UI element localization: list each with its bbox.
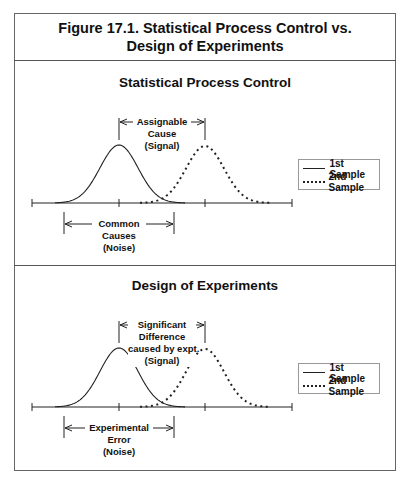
dotted-line-icon: [303, 181, 325, 183]
label-line: Error: [85, 434, 153, 446]
legend-item-2nd-sample: 2nd Sample: [303, 379, 375, 392]
doe-legend: 1st Sample 2nd Sample: [298, 363, 380, 394]
doe-noise-label: Experimental Error (Noise): [85, 422, 153, 458]
label-line: Difference: [128, 331, 196, 343]
label-line: Causes: [92, 230, 146, 242]
label-line: Significant: [128, 319, 196, 331]
doe-signal-label: Significant Difference caused by expt. (…: [128, 319, 196, 367]
label-line: Common: [92, 218, 146, 230]
distribution-diagram: [0, 0, 408, 487]
spc-signal-label: Assignable Cause (Signal): [133, 116, 191, 152]
label-line: caused by expt.: [128, 343, 196, 355]
dotted-line-icon: [303, 385, 325, 387]
label-line: (Noise): [92, 242, 146, 254]
legend-label: 2nd Sample: [329, 375, 375, 397]
legend-label: 2nd Sample: [329, 171, 375, 193]
label-line: (Signal): [133, 140, 191, 152]
solid-line-icon: [303, 168, 325, 169]
label-line: (Signal): [128, 355, 196, 367]
spc-legend: 1st Sample 2nd Sample: [298, 159, 380, 190]
spc-noise-label: Common Causes (Noise): [92, 218, 146, 254]
legend-item-2nd-sample: 2nd Sample: [303, 175, 375, 188]
label-line: (Noise): [85, 446, 153, 458]
label-line: Cause: [133, 128, 191, 140]
solid-line-icon: [303, 372, 325, 373]
label-line: Assignable: [133, 116, 191, 128]
label-line: Experimental: [85, 422, 153, 434]
